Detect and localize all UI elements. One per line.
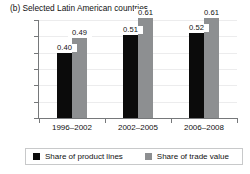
bar-value-label: 0.61 (200, 9, 224, 17)
figure-panel: (b) Selected Latin American countries Sh… (0, 0, 250, 174)
x-axis-tick (105, 119, 106, 123)
x-axis-tick (171, 119, 172, 123)
bar-0-1 (123, 35, 138, 118)
legend-label: Share of trade value (157, 152, 229, 161)
y-axis-tick (34, 20, 38, 21)
y-axis-tick (34, 53, 38, 54)
x-axis-tick (39, 119, 40, 123)
bar-value-label: 0.51 (119, 26, 143, 34)
bar-value-label: 0.52 (185, 24, 209, 32)
y-axis-tick (34, 69, 38, 70)
bar-value-label: 0.40 (53, 44, 77, 52)
bar-value-label: 0.61 (134, 9, 158, 17)
x-axis-category-label: 2006–2008 (164, 123, 244, 133)
bar-value-label: 0.49 (68, 29, 92, 37)
legend-label: Share of product lines (45, 152, 123, 161)
legend-item-product-lines: Share of product lines (33, 152, 123, 161)
y-axis-tick (34, 102, 38, 103)
y-axis-line (38, 20, 39, 119)
y-axis-tick (34, 36, 38, 37)
legend-swatch-icon (33, 153, 40, 160)
y-axis-tick (34, 118, 38, 119)
bar-0-2 (189, 33, 204, 118)
legend-item-trade-value: Share of trade value (145, 152, 229, 161)
bar-0-0 (57, 53, 72, 118)
y-axis-tick (34, 85, 38, 86)
bar-1-2 (204, 18, 219, 118)
chart-title: (b) Selected Latin American countries (10, 3, 148, 14)
chart-legend: Share of product lines Share of trade va… (25, 148, 243, 165)
x-axis-tick (237, 119, 238, 123)
x-axis-line (38, 118, 238, 119)
legend-swatch-icon (145, 153, 152, 160)
